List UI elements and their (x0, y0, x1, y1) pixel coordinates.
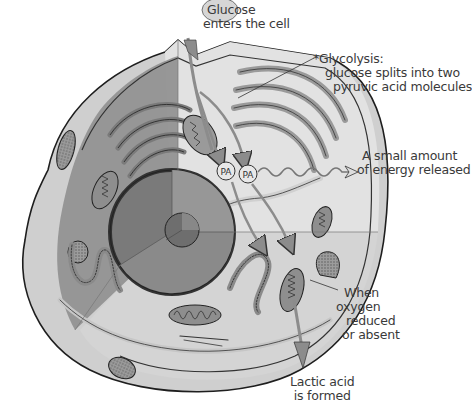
energy-label: A small amount of energy released (357, 149, 470, 177)
glycolysis-label: *Glycolysis: glucose splits into two pyr… (313, 52, 472, 94)
nucleus (110, 170, 234, 294)
oxygen-label: When oxygen reduced or absent (336, 286, 400, 342)
svg-text:PA: PA (242, 170, 254, 180)
svg-text:PA: PA (220, 167, 232, 177)
lactic-acid-label: Lactic acid is formed (290, 375, 354, 403)
pa-marker-2: PA (239, 165, 257, 183)
pa-marker-1: PA (217, 162, 235, 180)
glucose-label: Glucose enters the cell (203, 3, 290, 31)
vesicle (316, 252, 339, 278)
